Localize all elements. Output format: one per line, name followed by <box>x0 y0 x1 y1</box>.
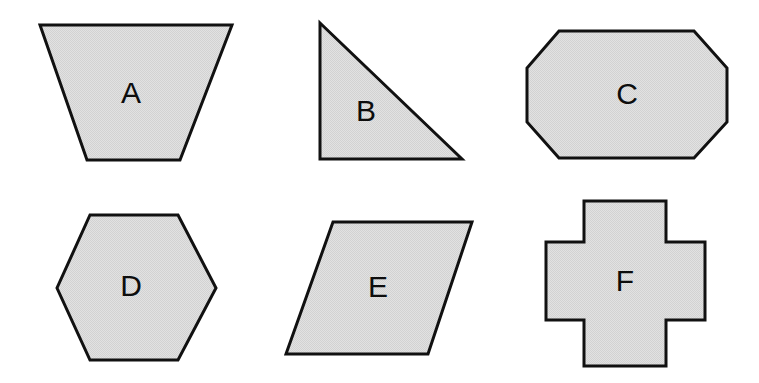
shape-label-a: A <box>121 76 141 109</box>
shape-group-c: C <box>527 31 727 158</box>
shape-label-d: D <box>120 269 142 302</box>
shape-label-e: E <box>368 270 388 303</box>
shapes-canvas: A B C D E F <box>0 0 759 383</box>
shape-label-c: C <box>616 77 638 110</box>
shapes-figure: A B C D E F <box>0 0 759 383</box>
shape-label-f: F <box>616 264 634 297</box>
shape-label-b: B <box>356 94 376 127</box>
